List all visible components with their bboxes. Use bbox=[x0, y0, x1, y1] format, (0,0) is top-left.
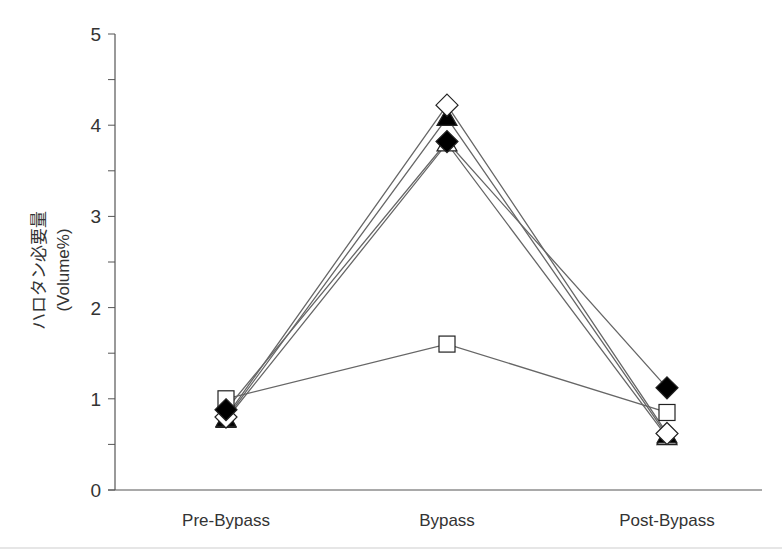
bottom-divider bbox=[0, 547, 782, 549]
y-tick-label: 2 bbox=[90, 298, 101, 319]
y-axis-title: ハロタン必要量(Volume%) bbox=[29, 211, 73, 330]
x-tick-label: Bypass bbox=[419, 511, 475, 530]
y-tick-label: 5 bbox=[90, 24, 101, 45]
series-markers bbox=[215, 94, 678, 444]
y-axis: 012345 bbox=[90, 24, 115, 501]
y-tick-label: 1 bbox=[90, 389, 101, 410]
y-tick-label: 4 bbox=[90, 115, 101, 136]
diamond-marker bbox=[436, 94, 458, 116]
series-line-open-triangle bbox=[226, 143, 667, 437]
line-chart: 012345 Pre-BypassBypassPost-Bypass ハロタン必… bbox=[0, 0, 782, 555]
x-axis: Pre-BypassBypassPost-Bypass bbox=[108, 490, 762, 530]
y-tick-label: 3 bbox=[90, 206, 101, 227]
y-axis-label: ハロタン必要量(Volume%) bbox=[29, 211, 73, 330]
series-line-filled-diamond bbox=[226, 142, 667, 410]
series-line-filled-triangle bbox=[226, 118, 667, 435]
square-marker bbox=[659, 404, 675, 420]
series-lines bbox=[226, 105, 667, 437]
series-line-open-square bbox=[226, 344, 667, 412]
x-tick-label: Post-Bypass bbox=[619, 511, 714, 530]
series-line-open-diamond bbox=[226, 105, 667, 433]
y-axis-title-unit: (Volume%) bbox=[54, 228, 73, 311]
x-tick-label: Pre-Bypass bbox=[182, 511, 270, 530]
y-axis-title-main: ハロタン必要量 bbox=[29, 211, 49, 330]
y-tick-label: 0 bbox=[90, 480, 101, 501]
square-marker bbox=[439, 336, 455, 352]
